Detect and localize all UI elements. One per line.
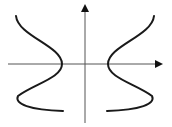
diagram-canvas bbox=[0, 0, 172, 127]
